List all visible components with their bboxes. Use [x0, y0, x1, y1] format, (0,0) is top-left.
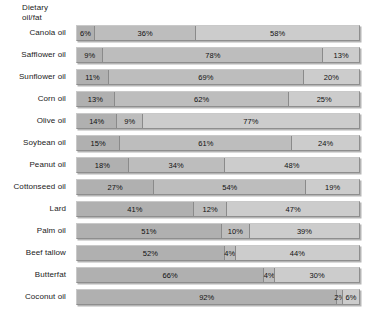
bar-segment: 66%: [77, 268, 263, 282]
chart-row: Olive oil14%9%77%: [0, 110, 370, 132]
bar-segment: 13%: [77, 92, 114, 106]
bar-segment: 27%: [77, 180, 153, 194]
segment-value-label: 11%: [85, 73, 100, 82]
stacked-bar: 11%69%20%: [76, 69, 360, 85]
segment-value-label: 51%: [141, 227, 156, 236]
y-axis-title: Dietary oil/fat: [22, 3, 48, 22]
category-label: Olive oil: [0, 110, 70, 132]
segment-value-label: 58%: [270, 29, 285, 38]
bar-segment: 18%: [77, 158, 128, 172]
bar-segment: 12%: [193, 202, 227, 216]
segment-value-label: 19%: [325, 183, 340, 192]
bar-segment: 6%: [342, 290, 359, 304]
category-label: Butterfat: [0, 264, 70, 286]
bar-segment: 54%: [153, 180, 305, 194]
stacked-bar: 14%9%77%: [76, 113, 360, 129]
bar-segment: 47%: [226, 202, 359, 216]
chart-row: Soybean oil15%61%24%: [0, 132, 370, 154]
stacked-bar-chart: Dietary oil/fat Canola oil6%36%58%Safflo…: [0, 0, 370, 321]
segment-value-label: 27%: [107, 183, 122, 192]
segment-value-label: 48%: [284, 161, 299, 170]
bar-segment: 10%: [221, 224, 249, 238]
stacked-bar: 92%2%6%: [76, 289, 360, 305]
stacked-bar: 51%10%39%: [76, 223, 360, 239]
segment-value-label: 18%: [95, 161, 110, 170]
chart-row: Butterfat66%4%30%: [0, 264, 370, 286]
bar-segment: 9%: [77, 48, 102, 62]
segment-value-label: 39%: [297, 227, 312, 236]
category-label: Coconut oil: [0, 286, 70, 308]
bar-segment: 77%: [142, 114, 359, 128]
chart-row: Coconut oil92%2%6%: [0, 286, 370, 308]
category-label: Palm oil: [0, 220, 70, 242]
bar-segment: 78%: [102, 48, 322, 62]
segment-value-label: 14%: [89, 117, 104, 126]
segment-value-label: 69%: [198, 73, 213, 82]
chart-row: Cottonseed oil27%54%19%: [0, 176, 370, 198]
bar-segment: 4%: [224, 246, 235, 260]
bar-segment: 6%: [77, 26, 94, 40]
segment-value-label: 30%: [310, 271, 325, 280]
bar-segment: 62%: [114, 92, 289, 106]
chart-row: Safflower oil9%78%13%: [0, 44, 370, 66]
segment-value-label: 4%: [264, 271, 275, 280]
segment-value-label: 44%: [290, 249, 305, 258]
category-label: Safflower oil: [0, 44, 70, 66]
segment-value-label: 4%: [224, 249, 235, 258]
category-label: Peanut oil: [0, 154, 70, 176]
bar-segment: 36%: [94, 26, 196, 40]
stacked-bar: 52%4%44%: [76, 245, 360, 261]
category-label: Soybean oil: [0, 132, 70, 154]
category-label: Cottonseed oil: [0, 176, 70, 198]
bar-segment: 14%: [77, 114, 116, 128]
segment-value-label: 62%: [194, 95, 209, 104]
stacked-bar: 18%34%48%: [76, 157, 360, 173]
bar-segment: 51%: [77, 224, 221, 238]
bar-segment: 24%: [291, 136, 359, 150]
segment-value-label: 6%: [80, 29, 91, 38]
chart-row: Beef tallow52%4%44%: [0, 242, 370, 264]
bar-segment: 9%: [116, 114, 141, 128]
category-label: Beef tallow: [0, 242, 70, 264]
segment-value-label: 47%: [286, 205, 301, 214]
segment-value-label: 13%: [334, 51, 349, 60]
stacked-bar: 41%12%47%: [76, 201, 360, 217]
chart-rows: Canola oil6%36%58%Safflower oil9%78%13%S…: [0, 22, 370, 308]
bar-segment: 39%: [249, 224, 359, 238]
bar-segment: 58%: [195, 26, 359, 40]
segment-value-label: 34%: [169, 161, 184, 170]
category-label: Sunflower oil: [0, 66, 70, 88]
segment-value-label: 15%: [91, 139, 106, 148]
segment-value-label: 13%: [88, 95, 103, 104]
segment-value-label: 92%: [199, 293, 214, 302]
bar-segment: 11%: [77, 70, 108, 84]
stacked-bar: 15%61%24%: [76, 135, 360, 151]
segment-value-label: 9%: [84, 51, 95, 60]
bar-segment: 41%: [77, 202, 193, 216]
segment-value-label: 78%: [205, 51, 220, 60]
bar-segment: 69%: [108, 70, 303, 84]
bar-segment: 25%: [288, 92, 359, 106]
bar-segment: 61%: [119, 136, 291, 150]
segment-value-label: 10%: [228, 227, 243, 236]
stacked-bar: 27%54%19%: [76, 179, 360, 195]
bar-segment: 52%: [77, 246, 224, 260]
segment-value-label: 41%: [127, 205, 142, 214]
category-label: Corn oil: [0, 88, 70, 110]
segment-value-label: 9%: [124, 117, 135, 126]
chart-row: Palm oil51%10%39%: [0, 220, 370, 242]
segment-value-label: 61%: [198, 139, 213, 148]
stacked-bar: 6%36%58%: [76, 25, 360, 41]
bar-segment: 13%: [322, 48, 359, 62]
segment-value-label: 54%: [222, 183, 237, 192]
segment-value-label: 20%: [324, 73, 339, 82]
bar-segment: 20%: [303, 70, 359, 84]
bar-segment: 30%: [274, 268, 359, 282]
bar-segment: 92%: [77, 290, 336, 304]
segment-value-label: 77%: [243, 117, 258, 126]
bar-segment: 44%: [235, 246, 359, 260]
chart-row: Corn oil13%62%25%: [0, 88, 370, 110]
segment-value-label: 36%: [138, 29, 153, 38]
stacked-bar: 66%4%30%: [76, 267, 360, 283]
segment-value-label: 66%: [162, 271, 177, 280]
